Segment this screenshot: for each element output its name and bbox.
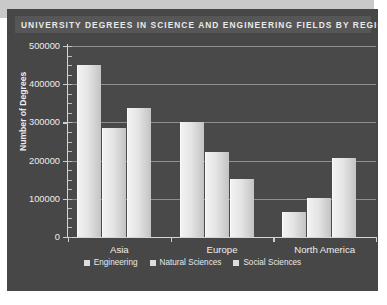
gridline xyxy=(68,84,376,85)
chart-legend: EngineeringNatural SciencesSocial Scienc… xyxy=(7,258,378,267)
y-axis-minor-tick xyxy=(68,103,72,104)
chart-panel: UNIVERSITY DEGREES IN SCIENCE AND ENGINE… xyxy=(7,9,378,291)
x-axis-category-label: Europe xyxy=(207,244,238,255)
y-axis-minor-tick xyxy=(68,227,72,228)
y-axis-minor-tick xyxy=(68,199,72,200)
x-axis-category-label: North America xyxy=(294,244,355,255)
y-axis-minor-tick xyxy=(68,180,72,181)
bar-north-america-social-sciences xyxy=(332,158,356,237)
y-axis-minor-tick xyxy=(68,65,72,66)
bar-asia-engineering xyxy=(77,65,101,237)
legend-swatch-engineering xyxy=(84,260,90,266)
y-axis-tick-label: 200000 xyxy=(29,156,60,166)
y-axis-minor-tick xyxy=(68,218,72,219)
y-axis-minor-tick xyxy=(68,189,72,190)
x-axis-tick xyxy=(376,237,377,242)
bar-europe-engineering xyxy=(180,122,204,237)
y-axis-tick-label: 0 xyxy=(55,232,60,242)
legend-item[interactable]: Engineering xyxy=(84,258,138,267)
y-axis-minor-tick xyxy=(68,46,72,47)
y-axis-minor-tick xyxy=(68,142,72,143)
x-axis-tick xyxy=(171,237,172,242)
y-axis-title: Number of Degrees xyxy=(18,72,28,151)
bar-europe-natural-sciences xyxy=(205,152,229,237)
x-axis-category-label: Asia xyxy=(110,244,129,255)
slide-bevel-left xyxy=(0,0,7,18)
bar-north-america-engineering xyxy=(282,212,306,237)
y-axis-minor-tick xyxy=(68,113,72,114)
slide-bevel-top xyxy=(0,0,374,9)
y-axis-minor-tick xyxy=(68,208,72,209)
y-axis-minor-tick xyxy=(68,170,72,171)
legend-label: Social Sciences xyxy=(243,258,301,267)
x-axis-tick xyxy=(68,237,69,242)
y-axis-minor-tick xyxy=(68,151,72,152)
slide-canvas: UNIVERSITY DEGREES IN SCIENCE AND ENGINE… xyxy=(0,0,387,305)
bar-asia-natural-sciences xyxy=(102,128,126,237)
chart-title: UNIVERSITY DEGREES IN SCIENCE AND ENGINE… xyxy=(15,20,378,30)
y-axis-tick-label: 500000 xyxy=(29,41,60,51)
legend-item[interactable]: Natural Sciences xyxy=(150,258,222,267)
gridline xyxy=(68,122,376,123)
legend-swatch-social-sciences xyxy=(233,260,239,266)
y-axis-minor-tick xyxy=(68,75,72,76)
y-axis-minor-tick xyxy=(68,132,72,133)
legend-item[interactable]: Social Sciences xyxy=(233,258,301,267)
y-axis-minor-tick xyxy=(68,122,72,123)
plot-area: 0100000200000300000400000500000AsiaEurop… xyxy=(68,46,376,237)
chart-title-band: UNIVERSITY DEGREES IN SCIENCE AND ENGINE… xyxy=(15,16,371,33)
bar-north-america-natural-sciences xyxy=(307,198,331,237)
legend-label: Engineering xyxy=(94,258,138,267)
y-axis-minor-tick xyxy=(68,161,72,162)
legend-swatch-natural-sciences xyxy=(150,260,156,266)
y-axis-minor-tick xyxy=(68,56,72,57)
gridline xyxy=(68,46,376,47)
x-axis-tick xyxy=(273,237,274,242)
y-axis-minor-tick xyxy=(68,94,72,95)
bar-asia-social-sciences xyxy=(127,108,151,237)
bar-europe-social-sciences xyxy=(230,179,254,237)
legend-label: Natural Sciences xyxy=(160,258,222,267)
y-axis-minor-tick xyxy=(68,84,72,85)
y-axis-tick-label: 300000 xyxy=(29,117,60,127)
y-axis-tick-label: 100000 xyxy=(29,194,60,204)
y-axis-tick-label: 400000 xyxy=(29,79,60,89)
